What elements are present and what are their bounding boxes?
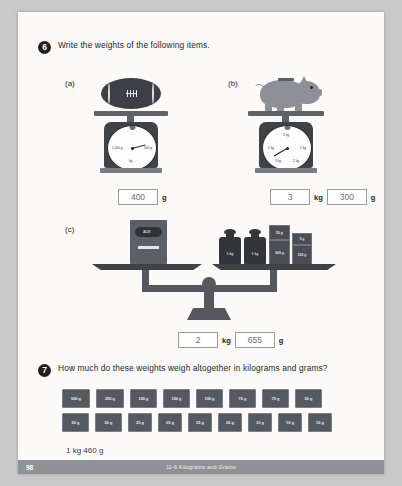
weight-chip[interactable]: 25 g [188, 413, 212, 432]
answer-row-a: 400 g [118, 189, 167, 205]
question-7-number: 7 [38, 364, 51, 377]
dial-needle [274, 148, 287, 156]
dial-label-left: 4 kg [268, 146, 274, 150]
dial-label-top: 3 kg [283, 133, 289, 137]
question-6-number: 6 [38, 41, 51, 54]
answer-unit-b-g: g [371, 193, 376, 202]
weight-chip-grid: 500 g250 g100 g100 g100 g75 g75 g50 g 50… [62, 389, 362, 437]
question-6-text: Write the weights of the following items… [58, 40, 210, 51]
weight-chip[interactable]: 50 g [62, 413, 89, 432]
weight-chip[interactable]: 20 g [218, 413, 242, 432]
dial-label-left: 1,000 g [112, 146, 123, 150]
page-footer: 98 11-6 Kilograms and Grams [18, 460, 384, 474]
dial-label-bottom: kg [129, 159, 132, 163]
cube-weight-500g: 500 g [269, 240, 290, 265]
worksheet-page: 6 Write the weights of the following ite… [18, 12, 384, 474]
weight-chip[interactable]: 50 g [295, 389, 322, 408]
weight-group-right: 1 kg 1 kg 50 g 500 g 5 g 100 g [219, 225, 329, 270]
weight-chip-row-1: 500 g250 g100 g100 g100 g75 g75 g50 g [62, 389, 362, 408]
weight-chip[interactable]: 10 g [248, 413, 272, 432]
scale-base [255, 168, 317, 173]
answer-row-b: 3 kg 300 g [270, 189, 375, 205]
footer-title: 11-6 Kilograms and Grams [18, 464, 384, 470]
toaster-icon: AUX [130, 220, 167, 264]
answer-unit-c-g: g [279, 336, 284, 345]
weight-chip[interactable]: 75 g [229, 389, 256, 408]
cube-weight-100g: 100 g [292, 245, 312, 265]
weight-chip[interactable]: 500 g [62, 389, 90, 408]
answer-input-c-kg[interactable]: 2 [178, 332, 218, 348]
balance-foot [187, 308, 231, 320]
answer-unit-b-kg: kg [314, 193, 323, 202]
weight-chip[interactable]: 75 g [262, 389, 289, 408]
toaster-label: AUX [143, 230, 151, 234]
weight-chip[interactable]: 100 g [163, 389, 190, 408]
weight-chip[interactable]: 25 g [128, 413, 152, 432]
scale-dial-kilograms: 3 kg 4 kg 1 kg 3 kg 2 kg [262, 125, 312, 171]
answer-question-7[interactable]: 1 kg 460 g [66, 446, 103, 455]
question-7: 7 How much do these weights weigh altoge… [38, 363, 328, 377]
part-b-label: (b) [228, 79, 238, 88]
cube-weight-5g: 5 g [292, 233, 312, 245]
answer-unit-a: g [162, 193, 167, 202]
answer-row-c: 2 kg 655 g [178, 332, 283, 348]
dial-label-bottom-right: 2 kg [293, 159, 299, 163]
dial-hub [286, 147, 289, 150]
answer-input-c-g[interactable]: 655 [235, 332, 275, 348]
bottle-weight-2: 1 kg [244, 237, 266, 265]
kg-scale-with-piggy-bank: 3 kg 4 kg 1 kg 3 kg 2 kg [246, 74, 326, 184]
dial-label-right: 500 g [144, 146, 152, 150]
answer-input-a[interactable]: 400 [118, 189, 158, 205]
bottle-weight-1: 1 kg [219, 237, 241, 265]
balance-column [204, 286, 214, 310]
piggy-eye [310, 86, 313, 89]
weight-chip[interactable]: 10 g [278, 413, 302, 432]
weight-chip[interactable]: 50 g [95, 413, 122, 432]
weight-chip[interactable]: 250 g [96, 389, 124, 408]
question-6: 6 Write the weights of the following ite… [38, 40, 210, 54]
part-a-label: (a) [65, 79, 75, 88]
weight-chip[interactable]: 100 g [130, 389, 157, 408]
weight-chip[interactable]: 25 g [158, 413, 182, 432]
answer-input-b-kg[interactable]: 3 [270, 189, 310, 205]
weight-chip[interactable]: 10 g [308, 413, 332, 432]
question-7-text: How much do these weights weigh altogeth… [58, 363, 328, 374]
cube-weight-50g: 50 g [269, 225, 290, 240]
weight-chip-row-2: 50 g50 g25 g25 g25 g20 g10 g10 g10 g [62, 413, 362, 432]
dial-label-bottom-left: 3 kg [275, 159, 281, 163]
gram-scale-with-football: 1,000 g 500 g kg [92, 78, 170, 183]
answer-input-b-g[interactable]: 300 [327, 189, 367, 205]
scale-base [100, 168, 162, 173]
piggy-bank-icon [250, 74, 322, 112]
weight-chip[interactable]: 100 g [196, 389, 223, 408]
dial-label-right: 1 kg [300, 146, 306, 150]
scale-dial-grams: 1,000 g 500 g kg [107, 125, 157, 171]
coin-slot [278, 78, 294, 81]
answer-unit-c-kg: kg [222, 336, 231, 345]
dial-hub [131, 147, 134, 150]
part-c-label: (c) [65, 225, 74, 234]
balance-scale: AUX 1 kg 1 kg 50 g 500 g 5 g [82, 220, 338, 325]
football-icon [101, 78, 161, 109]
